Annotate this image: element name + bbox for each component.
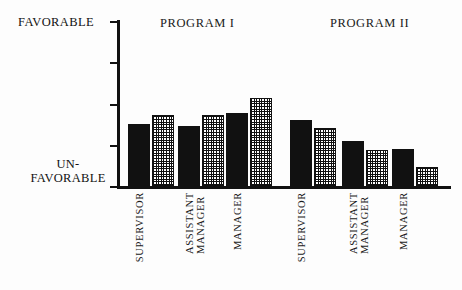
category-label-p2-supervisor: SUPERVISOR xyxy=(296,192,307,262)
bar-program-ii-manager-dotted xyxy=(416,167,438,186)
bar-program-ii-supervisor-crosshatch xyxy=(290,120,312,186)
category-label-p2-assistant-manager: ASSISTANT MANAGER xyxy=(348,192,370,254)
category-label-p1-assistant-manager: ASSISTANT MANAGER xyxy=(184,192,206,254)
bar-program-ii-supervisor-dotted xyxy=(314,128,336,186)
bar-program-i-supervisor-dotted xyxy=(152,115,174,186)
category-label-p1-supervisor: SUPERVISOR xyxy=(134,192,145,262)
category-label-p1-manager: MANAGER xyxy=(232,192,243,250)
category-label-p2-manager: MANAGER xyxy=(398,192,409,250)
bar-program-i-supervisor-crosshatch xyxy=(128,124,150,186)
bar-program-ii-assistant-manager-crosshatch xyxy=(342,141,364,186)
bar-program-i-manager-dotted xyxy=(250,98,272,186)
chart-canvas: PROGRAM I PROGRAM II FAVORABLE UN- FAVOR… xyxy=(0,0,462,290)
bar-program-ii-assistant-manager-dotted xyxy=(366,150,388,186)
bar-group-container xyxy=(0,0,462,290)
bar-program-i-manager-crosshatch xyxy=(226,113,248,187)
bar-program-ii-manager-crosshatch xyxy=(392,149,414,186)
bar-program-i-assistant-manager-dotted xyxy=(202,115,224,186)
bar-program-i-assistant-manager-crosshatch xyxy=(178,126,200,186)
